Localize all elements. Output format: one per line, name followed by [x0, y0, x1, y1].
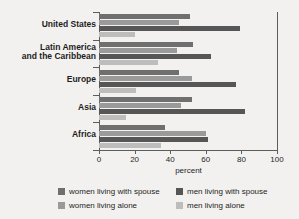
bar	[99, 103, 181, 108]
legend-item: men living alone	[176, 201, 284, 210]
legend-label: men living with spouse	[187, 187, 267, 196]
group-tick	[93, 40, 100, 41]
legend-swatch-icon	[176, 202, 183, 209]
x-axis-tick	[135, 150, 136, 154]
legend-item: women living with spouse	[58, 187, 176, 196]
bar	[99, 48, 177, 53]
x-axis-tick	[277, 150, 278, 154]
bar	[99, 42, 193, 47]
x-axis-tick-label: 100	[262, 155, 292, 164]
category-label: United States	[1, 20, 96, 30]
x-axis-tick-label: 40	[155, 155, 185, 164]
x-axis-title: percent	[99, 166, 278, 175]
legend-label: women living alone	[69, 201, 137, 210]
legend-item: women living alone	[58, 201, 176, 210]
x-axis-tick-label: 20	[120, 155, 150, 164]
bar	[99, 109, 245, 114]
x-axis-tick-label: 80	[226, 155, 256, 164]
x-axis-line	[99, 150, 278, 151]
group-tick	[93, 67, 100, 68]
bar	[99, 82, 236, 87]
bar	[99, 32, 135, 37]
category-label-line: Asia	[1, 103, 96, 113]
category-label-line: Africa	[1, 130, 96, 140]
legend-label: women living with spouse	[69, 187, 160, 196]
x-axis-tick	[170, 150, 171, 154]
x-axis-tick-label: 0	[84, 155, 114, 164]
x-axis-tick	[99, 150, 100, 154]
bar	[99, 115, 126, 120]
group-tick	[93, 12, 100, 13]
legend-swatch-icon	[58, 202, 65, 209]
legend-row: women living with spouse men living with…	[58, 184, 284, 198]
chart-legend: women living with spouse men living with…	[58, 184, 284, 212]
right-axis-spine	[277, 12, 278, 150]
x-axis-tick	[241, 150, 242, 154]
bar	[99, 14, 190, 19]
bar	[99, 143, 161, 148]
bar	[99, 88, 136, 93]
category-label: Africa	[1, 130, 96, 140]
bar	[99, 97, 192, 102]
legend-row: women living alone men living alone	[58, 198, 284, 212]
bar	[99, 76, 192, 81]
bar	[99, 125, 165, 130]
category-label-line: United States	[1, 20, 96, 30]
bar-chart: United StatesLatin Americaand the Caribb…	[0, 0, 299, 219]
legend-item: men living with spouse	[176, 187, 284, 196]
category-label-line: and the Caribbean	[1, 52, 96, 62]
x-axis-tick-label: 60	[191, 155, 221, 164]
bar	[99, 20, 179, 25]
bar	[99, 60, 158, 65]
group-tick	[93, 95, 100, 96]
bar	[99, 131, 206, 136]
bar	[99, 54, 211, 59]
bar	[99, 26, 240, 31]
category-label: Latin Americaand the Caribbean	[1, 43, 96, 62]
category-label: Asia	[1, 103, 96, 113]
group-tick	[93, 122, 100, 123]
category-label: Europe	[1, 75, 96, 85]
legend-label: men living alone	[187, 201, 245, 210]
bar	[99, 137, 208, 142]
bar	[99, 70, 179, 75]
category-label-line: Europe	[1, 75, 96, 85]
legend-swatch-icon	[176, 188, 183, 195]
legend-swatch-icon	[58, 188, 65, 195]
x-axis-tick	[206, 150, 207, 154]
